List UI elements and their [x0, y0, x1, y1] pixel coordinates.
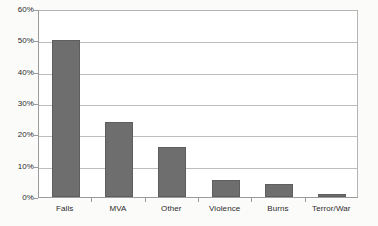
y-tick-label: 50%: [0, 37, 34, 45]
x-tick-label: Terror/War: [305, 204, 358, 214]
x-tick-mark: [91, 198, 92, 202]
bar: [265, 184, 293, 197]
y-tick-label: 30%: [0, 100, 34, 108]
bar: [212, 180, 240, 197]
y-axis-labels: 0%10%20%30%40%50%60%: [0, 0, 34, 226]
y-tick-label: 60%: [0, 6, 34, 14]
y-tick-label: 20%: [0, 131, 34, 139]
bar: [105, 122, 133, 197]
x-tick-label: Violence: [198, 204, 251, 214]
x-tick-mark: [145, 198, 146, 202]
y-tick-label: 40%: [0, 69, 34, 77]
bar: [158, 147, 186, 197]
x-axis-ticks: [38, 198, 358, 202]
x-axis-labels: FallsMVAOtherViolenceBurnsTerror/War: [38, 204, 358, 220]
x-tick-label: Falls: [38, 204, 91, 214]
x-tick-label: Other: [145, 204, 198, 214]
y-tick-label: 10%: [0, 163, 34, 171]
x-tick-mark: [251, 198, 252, 202]
x-tick-mark: [198, 198, 199, 202]
plot-area: [38, 10, 358, 198]
bar: [52, 40, 80, 197]
y-tick-label: 0%: [0, 194, 34, 202]
x-tick-mark: [305, 198, 306, 202]
x-tick-label: MVA: [91, 204, 144, 214]
bar-chart: 0%10%20%30%40%50%60% FallsMVAOtherViolen…: [0, 0, 378, 226]
bars-layer: [39, 11, 357, 197]
bar: [318, 194, 346, 197]
x-tick-label: Burns: [251, 204, 304, 214]
